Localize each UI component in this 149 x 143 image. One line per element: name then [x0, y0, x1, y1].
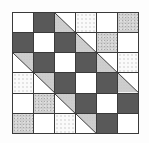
quilt-cell-r6-c2 — [34, 114, 54, 133]
half-square-triangle-icon — [55, 94, 75, 113]
quilt-cell-r2-c1 — [13, 33, 33, 52]
quilt-cell-r3-c4 — [76, 53, 96, 72]
quilt-cell-r1-c3 — [55, 13, 75, 32]
half-square-triangle-icon — [13, 53, 33, 72]
quilt-cell-r5-c1 — [13, 94, 33, 113]
quilt-cell-r3-c1 — [13, 53, 33, 72]
half-square-triangle-icon — [55, 13, 75, 32]
quilt-grid — [12, 12, 139, 134]
quilt-cell-r2-c3 — [55, 33, 75, 52]
half-square-triangle-icon — [97, 53, 117, 72]
quilt-cell-r1-c4 — [76, 13, 96, 32]
quilt-cell-r6-c3 — [55, 114, 75, 133]
half-square-triangle-icon — [34, 73, 54, 92]
half-square-triangle-icon — [76, 33, 96, 52]
quilt-cell-r5-c4 — [76, 94, 96, 113]
quilt-cell-r2-c4 — [76, 33, 96, 52]
quilt-cell-r5-c5 — [97, 94, 117, 113]
quilt-cell-r4-c5 — [97, 73, 117, 92]
half-square-triangle-icon — [76, 114, 96, 133]
quilt-cell-r4-c2 — [34, 73, 54, 92]
quilt-cell-r6-c6 — [118, 114, 138, 133]
quilt-cell-r4-c1 — [13, 73, 33, 92]
quilt-cell-r2-c6 — [118, 33, 138, 52]
quilt-cell-r3-c5 — [97, 53, 117, 72]
quilt-cell-r3-c2 — [34, 53, 54, 72]
quilt-cell-r1-c1 — [13, 13, 33, 32]
quilt-cell-r3-c6 — [118, 53, 138, 72]
quilt-cell-r4-c3 — [55, 73, 75, 92]
half-square-triangle-icon — [118, 73, 138, 92]
quilt-cell-r5-c6 — [118, 94, 138, 113]
quilt-cell-r5-c3 — [55, 94, 75, 113]
quilt-cell-r1-c6 — [118, 13, 138, 32]
quilt-cell-r6-c5 — [97, 114, 117, 133]
quilt-cell-r4-c6 — [118, 73, 138, 92]
quilt-cell-r3-c3 — [55, 53, 75, 72]
quilt-cell-r2-c5 — [97, 33, 117, 52]
quilt-cell-r1-c2 — [34, 13, 54, 32]
quilt-cell-r6-c4 — [76, 114, 96, 133]
quilt-cell-r4-c4 — [76, 73, 96, 92]
quilt-cell-r2-c2 — [34, 33, 54, 52]
quilt-cell-r5-c2 — [34, 94, 54, 113]
quilt-cell-r1-c5 — [97, 13, 117, 32]
quilt-cell-r6-c1 — [13, 114, 33, 133]
